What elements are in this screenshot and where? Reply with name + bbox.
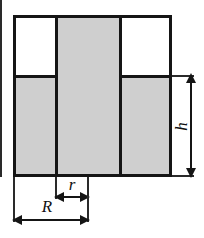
R-dimension-line xyxy=(16,219,86,221)
upper-left-void xyxy=(16,18,55,75)
R-arrowhead-left xyxy=(12,215,22,225)
symmetry-axis-line xyxy=(0,0,2,177)
r-dimension-label: r xyxy=(64,176,80,193)
h-dimension-label: h xyxy=(173,118,190,136)
R-arrowhead-right xyxy=(80,215,90,225)
h-arrowhead-bottom xyxy=(186,168,196,178)
upper-right-void xyxy=(122,18,169,75)
left-flange-region xyxy=(13,75,58,177)
technical-figure: h r R xyxy=(0,0,204,238)
h-arrowhead-top xyxy=(186,73,196,83)
central-hub-region xyxy=(55,15,122,177)
R-dimension-label: R xyxy=(38,198,56,215)
right-flange-region xyxy=(119,75,172,177)
